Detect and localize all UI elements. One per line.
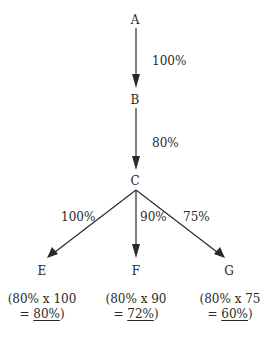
edge-label-c-e: 100%: [61, 210, 95, 224]
result-g-formula: (80% x 75: [199, 292, 260, 307]
result-e: (80% x 100 = 80%): [8, 292, 77, 322]
arrow-c-to-e: [47, 190, 136, 258]
edge-label-c-f: 90%: [140, 210, 167, 224]
result-f-formula: (80% x 90: [105, 292, 166, 307]
edge-label-a-b: 100%: [152, 54, 186, 68]
node-f: F: [132, 264, 140, 278]
result-g-total: = 60%): [199, 307, 260, 322]
arrow-c-to-f: [132, 190, 140, 258]
result-g: (80% x 75 = 60%): [199, 292, 260, 322]
arrow-c-to-g: [136, 190, 225, 258]
edge-label-c-g: 75%: [183, 210, 210, 224]
node-e: E: [38, 264, 47, 278]
node-b: B: [131, 93, 140, 107]
result-f: (80% x 90 = 72%): [105, 292, 166, 322]
result-e-value: 80%: [33, 307, 60, 321]
result-f-total: = 72%): [105, 307, 166, 322]
node-a: A: [131, 13, 140, 27]
result-e-formula: (80% x 100: [8, 292, 77, 307]
node-g: G: [224, 264, 234, 278]
result-e-total: = 80%): [8, 307, 77, 322]
edge-label-b-c: 80%: [152, 136, 179, 150]
result-g-value: 60%: [221, 307, 248, 321]
node-c: C: [130, 174, 139, 188]
arrow-b-to-c: [132, 108, 140, 170]
result-f-value: 72%: [127, 307, 154, 321]
diagram-arrows: [0, 0, 269, 337]
arrow-a-to-b: [132, 28, 140, 88]
